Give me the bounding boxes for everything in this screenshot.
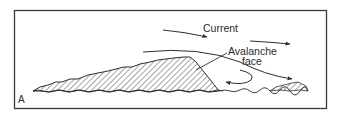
dune bbox=[33, 57, 219, 92]
panel-label: A bbox=[18, 94, 25, 105]
current-arrow-upper bbox=[163, 30, 207, 37]
face-label: face bbox=[242, 55, 262, 67]
current-arrow-right bbox=[250, 41, 290, 44]
avalanche-leader-line bbox=[196, 53, 227, 70]
current-label: Current bbox=[203, 22, 238, 34]
dune-diagram: Current Avalanche face A bbox=[0, 0, 342, 117]
eddy-arrow bbox=[226, 70, 252, 84]
ripple bbox=[270, 82, 308, 91]
